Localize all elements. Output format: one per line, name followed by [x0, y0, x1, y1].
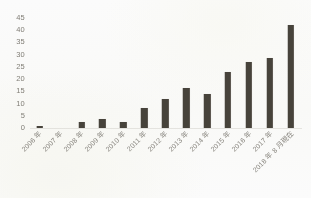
bar-slot [260, 18, 279, 128]
x-axis-tick-label: 2013 年 [167, 130, 190, 153]
bar-slot [30, 18, 49, 128]
bar [267, 58, 274, 128]
bar [162, 99, 169, 128]
x-axis-tick-label: 2007 年 [42, 130, 65, 153]
x-axis-tick-label: 2010 年 [104, 130, 127, 153]
x-axis-tick-label: 2008 年 [63, 130, 86, 153]
y-axis-tick-label: 45 [16, 14, 25, 22]
bar [141, 108, 148, 128]
axis-baseline [30, 128, 302, 129]
bar [246, 62, 253, 128]
bar [225, 72, 232, 128]
y-axis-tick-label: 5 [21, 112, 25, 120]
x-axis-tick-label: 2009 年 [83, 130, 106, 153]
bar [183, 88, 190, 128]
x-axis: 2006 年2007 年2008 年2009 年2010 年2011 年2012… [30, 130, 302, 196]
y-axis: 454035302520151050 [0, 18, 28, 128]
x-axis-tick-label: 2012 年 [146, 130, 169, 153]
y-axis-tick-label: 40 [16, 26, 25, 34]
bar-chart: 454035302520151050 2006 年2007 年2008 年200… [0, 0, 311, 198]
bar-slot [281, 18, 300, 128]
bar-slot [93, 18, 112, 128]
bar [99, 119, 106, 128]
y-axis-tick-label: 30 [16, 51, 25, 59]
y-axis-tick-label: 0 [21, 124, 25, 132]
bar-slot [176, 18, 195, 128]
bar-slot [72, 18, 91, 128]
bar-slot [135, 18, 154, 128]
x-axis-tick-label: 2006 年 [21, 130, 44, 153]
bar-slot [239, 18, 258, 128]
y-axis-tick-label: 20 [16, 75, 25, 83]
x-axis-tick-label: 2011 年 [126, 130, 148, 152]
x-axis-tick-label: 2018 年 8 月現在 [251, 130, 294, 173]
x-axis-tick-label: 2015 年 [209, 130, 232, 153]
plot-area [30, 18, 302, 128]
bar [204, 94, 211, 128]
y-axis-tick-label: 25 [16, 63, 25, 71]
x-axis-tick-label: 2014 年 [188, 130, 211, 153]
y-axis-tick-label: 10 [16, 100, 25, 108]
y-axis-tick-label: 15 [16, 88, 25, 96]
x-axis-tick-label: 2016 年 [230, 130, 253, 153]
bar-slot [218, 18, 237, 128]
bar-slot [51, 18, 70, 128]
y-axis-tick-label: 35 [16, 39, 25, 47]
bar-slot [197, 18, 216, 128]
bar-slot [114, 18, 133, 128]
bar-slot [156, 18, 175, 128]
bar [288, 25, 295, 128]
